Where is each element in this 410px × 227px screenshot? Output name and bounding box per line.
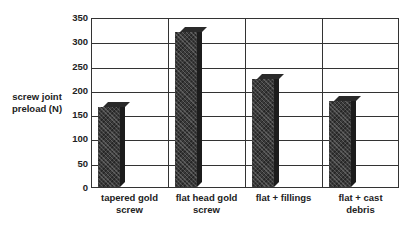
bar-top-face [257, 74, 284, 79]
plot-area [91, 18, 399, 188]
category-divider [245, 19, 246, 187]
y-tick-0: 0 [58, 183, 88, 193]
y-tick-100: 100 [58, 134, 88, 144]
bar-top-face [180, 27, 207, 32]
bar-front-face [329, 101, 351, 187]
bar-front-face [252, 79, 274, 187]
bar-side-face [197, 27, 202, 187]
y-tick-350: 350 [58, 13, 88, 23]
y-tick-50: 50 [58, 159, 88, 169]
x-tick-label: flat + castdebris [322, 192, 399, 216]
bar-top-face [103, 102, 130, 107]
y-tick-250: 250 [58, 62, 88, 72]
y-tick-200: 200 [58, 86, 88, 96]
category-divider [322, 19, 323, 187]
bar-top-face [334, 96, 361, 101]
bar-side-face [351, 96, 356, 187]
bar-flat-cast-debris [329, 96, 356, 187]
bar-flat-head-gold-screw [175, 27, 202, 187]
bar-flat-fillings [252, 74, 279, 187]
x-tick-label: flat + fillings [245, 192, 322, 204]
x-tick-label: flat head goldscrew [168, 192, 245, 216]
x-tick-label: tapered goldscrew [91, 192, 168, 216]
bar-front-face [98, 107, 120, 187]
bar-side-face [274, 74, 279, 187]
bar-front-face [175, 32, 197, 187]
y-tick-300: 300 [58, 37, 88, 47]
bar-tapered-gold-screw [98, 102, 125, 187]
y-tick-150: 150 [58, 110, 88, 120]
bar-side-face [120, 102, 125, 187]
category-divider [168, 19, 169, 187]
